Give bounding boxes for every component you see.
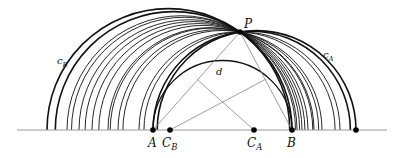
geometry-diagram: ACBCABPcBcAd: [0, 0, 405, 158]
label-B: B: [286, 136, 296, 150]
circle-cB: [47, 9, 290, 130]
label-A: A: [147, 136, 157, 150]
point-CB: [167, 127, 173, 133]
line-CA-perp: [198, 80, 254, 130]
point-B: [289, 127, 295, 133]
right-family-circle: [99, 25, 308, 130]
label-cA: cA: [323, 49, 334, 63]
label-d: d: [216, 66, 222, 77]
point-P: [237, 29, 243, 35]
label-cB: cB: [57, 55, 68, 69]
point-CA: [251, 127, 257, 133]
point-R: [353, 127, 359, 133]
line-CB-perp: [170, 79, 265, 130]
label-CB: CB: [162, 136, 177, 152]
circle-family-arcs: [47, 9, 356, 130]
label-CA: CA: [247, 136, 262, 152]
point-A: [150, 127, 156, 133]
circle-d: [153, 61, 292, 131]
label-P: P: [243, 17, 253, 31]
